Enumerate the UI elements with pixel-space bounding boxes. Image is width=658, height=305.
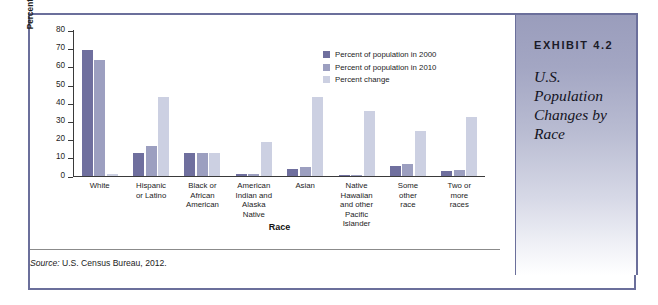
legend-swatch [323, 64, 330, 71]
y-axis-title: Percentage of population [26, 0, 35, 40]
y-tick-label: 0 [60, 171, 65, 180]
y-tick-mark [68, 31, 73, 32]
bar [312, 97, 323, 176]
bar-group [133, 30, 169, 176]
bar [287, 169, 298, 176]
bar [184, 153, 195, 175]
bar [107, 174, 118, 176]
bar [466, 117, 477, 175]
y-tick-mark [68, 67, 73, 68]
y-tick-mark [68, 158, 73, 159]
bar [402, 164, 413, 175]
y-tick-mark [68, 177, 73, 178]
legend-item: Percent of population in 2000 [323, 49, 513, 60]
legend-item: Percent of population in 2010 [323, 62, 513, 73]
y-tick-label: 60 [56, 61, 65, 70]
y-tick-mark [68, 122, 73, 123]
bar [415, 131, 426, 175]
bar [209, 153, 220, 175]
y-tick-label: 80 [56, 25, 65, 34]
bar-group [184, 30, 220, 176]
bar [236, 174, 247, 176]
bar [441, 171, 452, 175]
y-tick-label: 30 [56, 116, 65, 125]
bar [339, 175, 350, 176]
exhibit-title: U.S. Population Changes by Race [534, 67, 630, 143]
y-tick-label: 20 [56, 134, 65, 143]
exhibit-figure: Percentage of population 010203040506070… [0, 0, 658, 305]
y-tick-mark [68, 104, 73, 105]
bar [146, 146, 157, 176]
bar-group [287, 30, 323, 176]
bar [158, 97, 169, 175]
y-tick-mark [68, 86, 73, 87]
y-tick-label: 40 [56, 98, 65, 107]
bar [300, 167, 311, 176]
x-category-label: Two ormoreraces [426, 181, 493, 210]
bar [261, 142, 272, 175]
legend-label: Percent change [335, 75, 390, 84]
bar-group [82, 30, 118, 176]
exhibit-number: EXHIBIT 4.2 [534, 39, 613, 51]
bar [133, 153, 144, 176]
y-tick-label: 70 [56, 43, 65, 52]
source-keyword: Source: [30, 258, 60, 268]
bar [364, 111, 375, 175]
exhibit-title-panel: EXHIBIT 4.2 U.S. Population Changes by R… [515, 13, 638, 275]
bar [390, 166, 401, 176]
y-tick-mark [68, 140, 73, 141]
bar [197, 153, 208, 176]
x-axis-title: Race [74, 222, 485, 232]
source-divider [30, 249, 500, 250]
y-tick-label: 50 [56, 80, 65, 89]
bar [82, 50, 93, 176]
x-axis-line [73, 176, 485, 178]
legend-swatch [323, 76, 330, 83]
y-tick-mark [68, 49, 73, 50]
chart-area: Percentage of population 010203040506070… [30, 18, 500, 240]
bar [454, 170, 465, 175]
legend-label: Percent of population in 2010 [335, 63, 436, 72]
legend-swatch [323, 51, 330, 58]
bar-group [236, 30, 272, 176]
bar [351, 175, 362, 176]
chart-legend: Percent of population in 2000Percent of … [323, 49, 513, 87]
source-note: Source: U.S. Census Bureau, 2012. [30, 258, 167, 268]
bar [94, 60, 105, 176]
legend-label: Percent of population in 2000 [335, 50, 436, 59]
bar [248, 174, 259, 176]
source-citation: U.S. Census Bureau, 2012. [60, 258, 167, 268]
legend-item: Percent change [323, 74, 513, 85]
y-tick-label: 10 [56, 152, 65, 161]
